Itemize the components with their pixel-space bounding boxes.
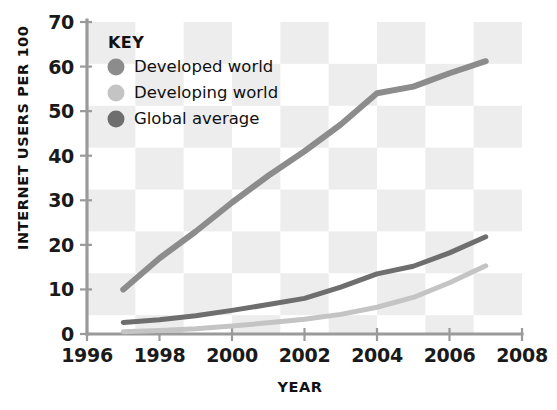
x-tick-label: 2000 [206,344,258,366]
legend-swatch [108,111,125,128]
y-tick-label: 30 [48,189,74,211]
y-tick-label: 20 [48,234,74,256]
y-tick-label: 10 [48,278,74,300]
y-axis-title: INTERNET USERS PER 100 [15,26,31,250]
x-tick-label: 1996 [61,344,113,366]
x-tick-label: 2004 [351,344,403,366]
x-tick-label: 2008 [496,344,548,366]
legend-title: KEY [108,33,144,52]
x-tick-label: 1998 [134,344,186,366]
y-tick-label: 60 [48,56,74,78]
legend-swatch [108,59,125,76]
chart-container: 010203040506070 199619982000200220042006… [0,0,557,410]
legend-label: Developing world [134,83,278,102]
x-tick-label: 2006 [424,344,476,366]
x-tick-label: 2002 [279,344,331,366]
line-chart: 010203040506070 199619982000200220042006… [0,0,557,410]
legend-label: Developed world [134,57,273,76]
y-tick-label: 40 [48,145,74,167]
y-tick-label: 0 [61,323,74,345]
legend-label: Global average [134,109,259,128]
y-tick-label: 70 [48,11,74,33]
y-tick-label: 50 [48,100,74,122]
x-axis-title: YEAR [276,379,322,395]
legend-swatch [108,85,125,102]
